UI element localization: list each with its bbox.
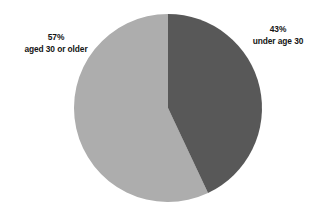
- pie-label-under-age-30: 43% under age 30: [229, 23, 317, 46]
- pie-label-percent-under-age-30: 43%: [229, 23, 317, 35]
- pie-label-text-aged-30-or-older: aged 30 or older: [7, 43, 106, 55]
- pie-chart-figure: 57% aged 30 or older 43% under age 30: [0, 0, 317, 215]
- pie-label-text-under-age-30: under age 30: [229, 35, 317, 47]
- pie-label-aged-30-or-older: 57% aged 30 or older: [7, 31, 106, 54]
- pie-label-percent-aged-30-or-older: 57%: [7, 31, 106, 43]
